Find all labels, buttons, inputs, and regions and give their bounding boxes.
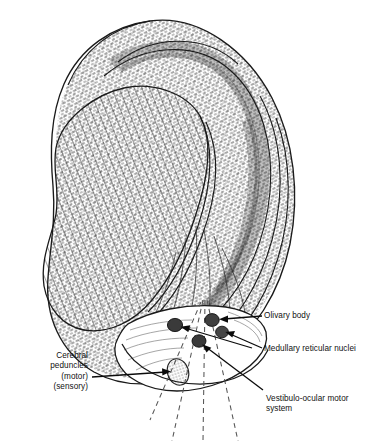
olivary-body-nucleus: [205, 314, 219, 327]
medullary-reticular-nucleus-left: [167, 318, 182, 331]
label-vestibulo-ocular-motor-system: Vestibulo-ocular motor system: [266, 394, 382, 415]
label-medullary-reticular-nuclei: Medullary reticular nuclei: [264, 344, 383, 354]
label-cerebral-peduncles: Cerebral peduncles (motor) (sensory): [2, 351, 88, 393]
label-olivary-body: Olivary body: [264, 311, 382, 321]
anatomical-figure: Cerebral peduncles (motor) (sensory) Oli…: [0, 0, 383, 441]
